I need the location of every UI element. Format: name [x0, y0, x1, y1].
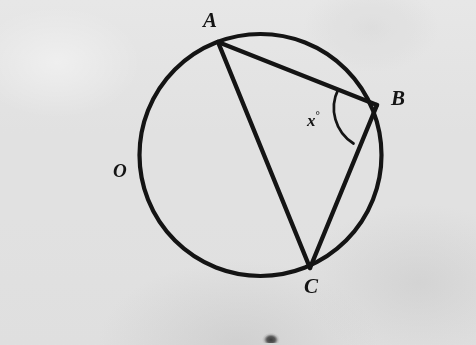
circle-outline — [140, 34, 382, 276]
angle-label-x-degrees: x° — [307, 110, 320, 129]
chord-ac — [218, 42, 310, 268]
diagram-page: A B C O x° — [0, 0, 476, 345]
point-label-b: B — [391, 88, 405, 109]
angle-variable-text: x — [307, 111, 316, 130]
angle-arc-at-b — [334, 89, 354, 143]
center-label-o: O — [113, 161, 127, 180]
circle-geometry-figure — [0, 0, 476, 345]
point-label-c: C — [304, 276, 318, 297]
point-label-a: A — [203, 10, 217, 31]
degree-symbol: ° — [316, 109, 320, 121]
